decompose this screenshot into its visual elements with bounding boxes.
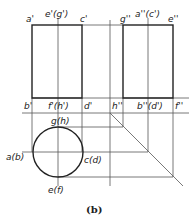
projection-diagram: a' e'(g') c' b' f'(h') d' g'' a''(c') e'…: [0, 0, 189, 217]
label-c-front: c': [80, 14, 87, 24]
front-view-rect: [32, 25, 82, 98]
figure-caption: (b): [86, 204, 102, 215]
label-cd-top: c(d): [84, 155, 102, 165]
label-ab-top: a(b): [6, 152, 24, 162]
label-ac-side: a''(c'): [135, 9, 160, 19]
label-a-front: a': [26, 14, 34, 24]
label-d-front: d': [84, 101, 92, 111]
label-eg-front: e'(g'): [45, 9, 68, 19]
label-b-front: b': [24, 101, 32, 111]
label-h-side: h'': [112, 101, 123, 111]
label-g-side: g'': [120, 14, 131, 24]
label-fh-front: f'(h'): [48, 101, 69, 111]
label-bd-side: b''(d'): [137, 101, 163, 111]
label-gh-top: g(h): [51, 116, 69, 126]
label-f-side: f'': [175, 101, 183, 111]
label-ef-top: e(f): [48, 185, 64, 195]
label-e-side: e'': [168, 14, 179, 24]
